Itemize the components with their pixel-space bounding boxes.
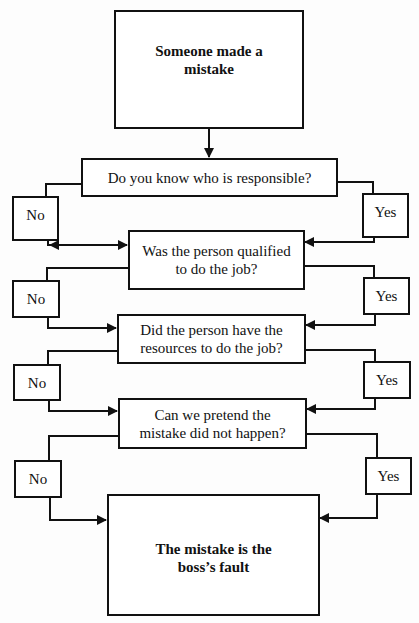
question-node-1: Do you know who is responsible? [81, 158, 338, 197]
end-node: The mistake is the boss’s fault [107, 494, 320, 616]
question-text: Do you know who is responsible? [108, 169, 312, 187]
yes-text: Yes [375, 203, 397, 221]
question-text: Was the person qualified to do the job? [137, 242, 297, 278]
no-text: No [27, 290, 45, 308]
yes-label-1: Yes [362, 193, 409, 238]
question-node-3: Did the person have the resources to do … [117, 314, 306, 364]
question-node-4: Can we pretend the mistake did not happe… [118, 398, 307, 449]
yes-text: Yes [378, 467, 400, 485]
yes-label-3: Yes [363, 361, 411, 399]
no-label-2: No [12, 280, 60, 318]
no-text: No [29, 470, 47, 488]
yes-text: Yes [376, 371, 398, 389]
start-text: Someone made a mistake [144, 42, 274, 78]
end-text: The mistake is the boss’s fault [149, 540, 279, 576]
start-node: Someone made a mistake [114, 10, 304, 129]
no-text: No [28, 374, 46, 392]
yes-text: Yes [376, 287, 398, 305]
no-label-1: No [12, 196, 59, 241]
yes-label-2: Yes [363, 277, 410, 315]
no-text: No [26, 206, 44, 224]
question-text: Can we pretend the mistake did not happe… [133, 406, 293, 442]
question-node-2: Was the person qualified to do the job? [128, 230, 305, 290]
no-label-3: No [13, 364, 61, 401]
no-label-4: No [14, 460, 62, 498]
flowchart: Someone made a mistake Do you know who i… [0, 0, 419, 623]
yes-label-4: Yes [365, 457, 412, 495]
question-text: Did the person have the resources to do … [132, 321, 292, 357]
